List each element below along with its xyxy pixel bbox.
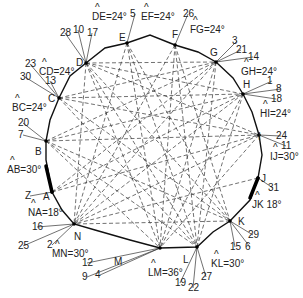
sight-line-JN	[74, 178, 258, 224]
station-label-I: I	[258, 131, 261, 142]
station-label-D: D	[76, 57, 83, 68]
hat-icon: ^	[42, 57, 47, 68]
sight-number: 29	[248, 229, 260, 240]
sight-number: 4	[95, 269, 101, 280]
sight-number: 16	[32, 221, 44, 232]
leader-line	[87, 248, 160, 263]
sight-line-KN	[74, 221, 230, 224]
thick-segment	[46, 166, 52, 192]
sight-line-EN	[74, 43, 127, 224]
sight-number: 1	[267, 75, 273, 86]
hat-icon: ^	[144, 2, 149, 13]
station-point-D	[84, 61, 88, 65]
hat-icon: ^	[55, 239, 60, 250]
sight-number: 11	[281, 140, 292, 151]
hat-icon: ^	[273, 142, 278, 153]
sight-number: 26	[183, 8, 195, 19]
sight-number: 12	[82, 257, 94, 268]
station-label-L: L	[183, 254, 189, 265]
sight-line-FL	[175, 45, 197, 247]
sight-line-DK	[86, 63, 230, 221]
sight-line-BK	[46, 141, 230, 221]
hat-icon: ^	[95, 2, 100, 13]
sight-line-BL	[46, 141, 197, 247]
station-label-E: E	[119, 32, 126, 43]
sight-number: 23	[25, 58, 37, 69]
sight-number: 6	[245, 241, 251, 252]
sight-number: 19	[175, 277, 187, 288]
sight-number: Z	[25, 190, 31, 201]
sight-number: 14	[248, 51, 260, 62]
station-label-A: A	[43, 191, 50, 202]
sight-number: 15	[230, 241, 242, 252]
sight-line-DN	[74, 63, 86, 224]
hat-icon: ^	[15, 93, 20, 104]
hat-icon: ^	[255, 190, 260, 201]
sight-number: 30	[20, 71, 32, 82]
sight-line-CH	[59, 94, 243, 98]
station-point-N	[72, 222, 76, 226]
sight-number: 7	[18, 129, 24, 140]
station-label-N: N	[74, 231, 81, 242]
station-point-G	[214, 60, 218, 64]
sight-line-EK	[127, 43, 230, 221]
sight-number: 9	[82, 271, 88, 282]
sight-number: 2	[47, 239, 53, 250]
sight-line-CI	[59, 98, 259, 135]
sight-number: 21	[236, 44, 248, 55]
hat-icon: ^	[31, 198, 36, 209]
station-label-J: J	[261, 173, 266, 184]
sight-lines	[46, 43, 259, 248]
sight-number: 17	[87, 27, 99, 38]
station-point-E	[125, 41, 129, 45]
station-point-H	[241, 92, 245, 96]
sight-line-DG	[86, 62, 216, 63]
sight-line-AH	[52, 94, 243, 192]
sight-line-IN	[74, 135, 259, 224]
sight-number: 22	[188, 282, 200, 293]
sight-number: 31	[268, 182, 280, 193]
sight-line-GM	[160, 62, 216, 248]
hat-icon: ^	[214, 249, 219, 260]
hat-icon: ^	[151, 258, 156, 269]
station-label-B: B	[35, 146, 42, 157]
sight-number: 28	[60, 27, 72, 38]
station-point-M	[158, 246, 162, 250]
station-label-K: K	[238, 216, 245, 227]
stations: ABCDEFGHIJKLMN	[35, 29, 266, 267]
traverse-diagram: ABCDEFGHIJKLMN DE=24°^EF=24°^FG=24°^GH=2…	[0, 0, 303, 298]
sight-number: 5	[130, 8, 136, 19]
station-label-C: C	[48, 93, 55, 104]
sight-number: 20	[18, 117, 30, 128]
station-point-B	[44, 139, 48, 143]
sight-number: 25	[18, 240, 30, 251]
sight-number: 10	[73, 24, 85, 35]
thick-segments	[46, 166, 258, 198]
sight-line-GN	[74, 62, 216, 224]
station-label-H: H	[243, 79, 250, 90]
station-point-A	[50, 190, 54, 194]
sight-number: 13	[45, 75, 57, 86]
station-label-F: F	[172, 29, 178, 40]
sight-line-AI	[52, 135, 259, 192]
hat-icon: ^	[263, 99, 268, 110]
station-point-J	[256, 176, 260, 180]
sight-line-CK	[59, 98, 230, 221]
sight-line-EM	[127, 43, 160, 248]
sight-line-HN	[74, 94, 243, 224]
sight-number: 27	[201, 271, 213, 282]
station-label-M: M	[114, 256, 122, 267]
sight-line-HL	[197, 94, 243, 247]
hat-icon: ^	[10, 155, 15, 166]
station-point-K	[228, 219, 232, 223]
station-point-F	[173, 43, 177, 47]
station-point-C	[57, 96, 61, 100]
station-point-L	[195, 245, 199, 249]
sight-line-GL	[197, 62, 216, 247]
sight-number: 18	[271, 93, 283, 104]
station-label-G: G	[210, 47, 218, 58]
